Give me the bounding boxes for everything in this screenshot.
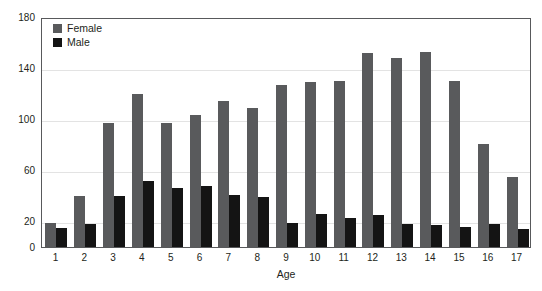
bar-female bbox=[478, 144, 489, 248]
bar-group bbox=[132, 19, 154, 247]
x-tick-label: 2 bbox=[69, 252, 99, 264]
bar-group bbox=[247, 19, 269, 247]
x-tick-label: 3 bbox=[98, 252, 128, 264]
bar-female bbox=[449, 81, 460, 247]
bar-male bbox=[114, 196, 125, 247]
bar-male bbox=[258, 197, 269, 247]
bar-group bbox=[218, 19, 240, 247]
bar-male bbox=[402, 224, 413, 247]
y-tick-label: 180 bbox=[0, 13, 35, 23]
bar-female bbox=[305, 82, 316, 247]
x-tick-label: 1 bbox=[40, 252, 70, 264]
bar-male bbox=[85, 224, 96, 247]
bar-female bbox=[74, 196, 85, 247]
bar-male bbox=[316, 214, 327, 247]
x-tick-label: 17 bbox=[502, 252, 532, 264]
bar-female bbox=[132, 94, 143, 247]
bar-male bbox=[287, 223, 298, 247]
bar-male bbox=[431, 225, 442, 247]
y-tick-label: 60 bbox=[0, 166, 35, 176]
bar-male bbox=[345, 218, 356, 247]
bar-group bbox=[478, 19, 500, 247]
bar-male bbox=[201, 186, 212, 247]
bar-female bbox=[507, 177, 518, 247]
bar-group bbox=[161, 19, 183, 247]
legend-label-male: Male bbox=[67, 37, 90, 48]
bar-group bbox=[449, 19, 471, 247]
bar-female bbox=[276, 85, 287, 247]
bar-male bbox=[229, 195, 240, 247]
bar-group bbox=[74, 19, 96, 247]
x-tick-label: 7 bbox=[213, 252, 243, 264]
bar-female bbox=[161, 123, 172, 247]
x-tick-label: 8 bbox=[242, 252, 272, 264]
x-tick-label: 15 bbox=[444, 252, 474, 264]
bar-group bbox=[305, 19, 327, 247]
x-tick-label: 6 bbox=[185, 252, 215, 264]
x-tick-label: 5 bbox=[156, 252, 186, 264]
x-tick-label: 10 bbox=[300, 252, 330, 264]
female-swatch-icon bbox=[53, 24, 62, 33]
bar-group bbox=[334, 19, 356, 247]
legend: Female Male bbox=[53, 22, 102, 50]
x-axis: 1234567891011121314151617 bbox=[41, 252, 531, 266]
bar-group bbox=[507, 19, 529, 247]
bar-female bbox=[45, 223, 56, 247]
x-tick-label: 13 bbox=[386, 252, 416, 264]
x-tick-label: 4 bbox=[127, 252, 157, 264]
x-tick-label: 11 bbox=[329, 252, 359, 264]
bar-female bbox=[190, 115, 201, 247]
bar-group bbox=[190, 19, 212, 247]
bar-female bbox=[420, 52, 431, 248]
bar-male bbox=[172, 188, 183, 247]
legend-label-female: Female bbox=[67, 23, 102, 34]
bar-group bbox=[276, 19, 298, 247]
bar-male bbox=[518, 229, 529, 247]
bar-female bbox=[391, 58, 402, 247]
bar-female bbox=[218, 101, 229, 247]
x-tick-label: 9 bbox=[271, 252, 301, 264]
bar-group bbox=[420, 19, 442, 247]
bar-male bbox=[489, 224, 500, 247]
bar-female bbox=[334, 81, 345, 247]
y-tick-label: 140 bbox=[0, 64, 35, 74]
x-axis-title: Age bbox=[41, 268, 531, 280]
bar-female bbox=[362, 53, 373, 247]
bar-group bbox=[391, 19, 413, 247]
y-tick-label: 20 bbox=[0, 217, 35, 227]
plot-area bbox=[41, 18, 531, 248]
bar-group bbox=[362, 19, 384, 247]
bar-male bbox=[373, 215, 384, 247]
male-swatch-icon bbox=[53, 38, 62, 47]
bar-male bbox=[56, 228, 67, 247]
bar-group bbox=[45, 19, 67, 247]
x-tick-label: 12 bbox=[357, 252, 387, 264]
y-tick-label: 0 bbox=[0, 243, 35, 253]
x-tick-label: 14 bbox=[415, 252, 445, 264]
bar-chart: 02060100140180 1234567891011121314151617… bbox=[0, 0, 542, 291]
bar-male bbox=[460, 227, 471, 247]
x-tick-label: 16 bbox=[473, 252, 503, 264]
bar-female bbox=[247, 108, 258, 247]
bar-male bbox=[143, 181, 154, 247]
bar-female bbox=[103, 123, 114, 247]
legend-item-female: Female bbox=[53, 22, 102, 35]
legend-item-male: Male bbox=[53, 36, 102, 49]
bar-group bbox=[103, 19, 125, 247]
y-tick-label: 100 bbox=[0, 115, 35, 125]
